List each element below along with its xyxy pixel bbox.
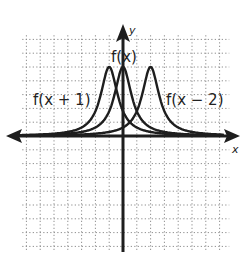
- dotted-grid: [22, 35, 229, 250]
- curve-label-f-plus-1: f(x + 1): [33, 91, 91, 109]
- curve-label-f-minus-2: f(x − 2): [166, 91, 224, 109]
- function-transformation-graph: y x f(x) f(x + 1) f(x − 2): [0, 0, 246, 254]
- x-axis-label: x: [231, 143, 239, 156]
- curve-label-f: f(x): [111, 48, 137, 66]
- y-axis-label: y: [128, 24, 136, 37]
